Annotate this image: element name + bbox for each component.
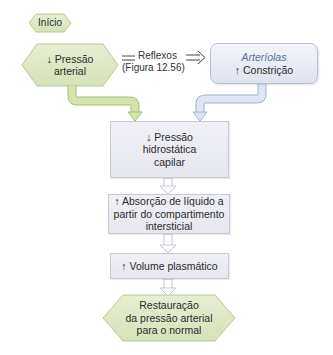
trigger-line-2: arterial <box>54 65 86 78</box>
arterioles-effect: ↑ Constrição <box>235 64 293 77</box>
step-1-line-3: capilar <box>154 156 185 169</box>
connector-arrow-2 <box>160 234 176 253</box>
end-line-2: da pressão arterial <box>126 312 213 325</box>
start-label: Início <box>29 14 71 32</box>
step-2-line-1: ↑ Absorção de líquido a <box>114 195 223 208</box>
step-2-line-2: partir do compartimento <box>114 208 225 221</box>
step-1-line-2: hidrostática <box>143 143 197 156</box>
arterioles-box: Arteríolas ↑ Constrição <box>210 43 318 84</box>
step-2-line-3: intersticial <box>146 220 193 233</box>
step-box-hydrostatic-pressure: ↓ Pressão hidrostática capilar <box>110 121 229 178</box>
step-1-line-1: ↓ Pressão <box>146 131 193 144</box>
step-box-plasma-volume: ↑ Volume plasmático <box>110 253 229 279</box>
reflex-label: Reflexos <box>138 50 177 62</box>
trigger-label: ↓ Pressão arterial <box>22 44 118 86</box>
reflex-annotation: Reflexos (Figura 12.56) <box>122 50 208 74</box>
green-arrow <box>72 86 142 121</box>
step-3-line-1: ↑ Volume plasmático <box>121 260 217 273</box>
arterioles-title: Arteríolas <box>242 51 287 64</box>
end-label: Restauração da pressão arterial para o n… <box>103 295 235 341</box>
connector-arrow-3 <box>160 279 176 296</box>
end-line-1: Restauração <box>139 299 199 312</box>
connector-arrow-1 <box>160 178 176 194</box>
blue-arrow <box>193 84 262 121</box>
end-line-3: para o normal <box>137 324 202 337</box>
start-text: Início <box>38 17 62 30</box>
trigger-line-1: ↓ Pressão <box>47 53 94 66</box>
step-box-fluid-absorption: ↑ Absorção de líquido a partir do compar… <box>108 194 230 234</box>
reflex-figure-ref: (Figura 12.56) <box>122 62 185 73</box>
